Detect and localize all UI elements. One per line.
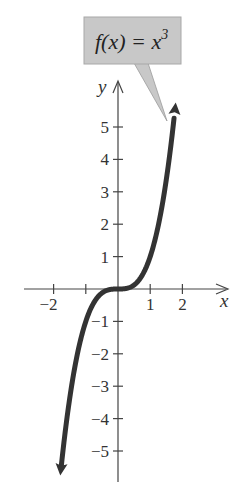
y-tick-label: −3	[91, 377, 109, 396]
x-tick-label: 2	[178, 295, 187, 314]
y-axis-label: y	[96, 76, 107, 97]
y-tick-label: −2	[91, 345, 109, 364]
axes	[24, 81, 228, 482]
x-axis-label: x	[219, 290, 229, 311]
y-tick-label: 4	[101, 150, 110, 169]
curve-arrow-up-icon	[168, 102, 180, 115]
y-tick-label: 5	[101, 118, 110, 137]
cubic-function-graph: f(x) = x3 −212−5−4−3−2−112345 x y	[0, 0, 251, 498]
y-tick-label: −4	[91, 410, 110, 429]
y-tick-label: 3	[101, 183, 110, 202]
x-tick-label: 1	[146, 295, 155, 314]
callout-label: f(x) = x3	[95, 27, 168, 54]
x-tick-label: −2	[40, 295, 58, 314]
y-tick-label: −5	[91, 442, 109, 461]
y-tick-label: −1	[91, 312, 109, 331]
y-tick-label: 1	[101, 248, 110, 267]
callout-pointer	[134, 63, 167, 121]
y-tick-label: 2	[101, 215, 110, 234]
